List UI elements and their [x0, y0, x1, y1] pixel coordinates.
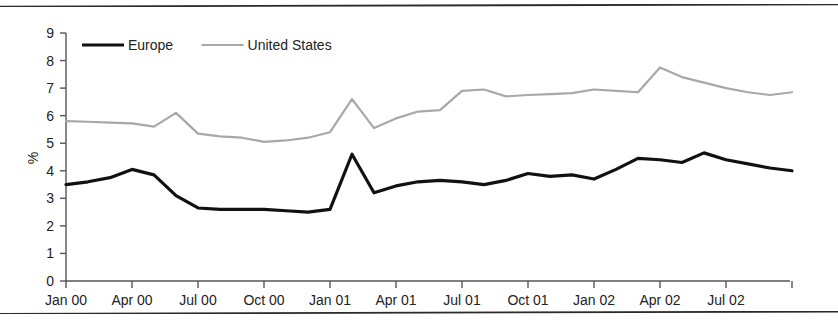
series-line-europe — [66, 153, 792, 212]
x-tick-label: Jul 01 — [443, 292, 481, 308]
y-tick-label: 3 — [46, 190, 54, 206]
y-tick-label: 8 — [46, 53, 54, 69]
x-tick-label: Jan 00 — [45, 292, 87, 308]
x-tick-label: Jan 02 — [573, 292, 615, 308]
y-tick-label: 7 — [46, 80, 54, 96]
page-rule-bottom — [0, 311, 838, 314]
y-axis: 0123456789 — [46, 25, 66, 289]
y-tick-label: 1 — [46, 245, 54, 261]
y-axis-ticks — [60, 33, 66, 281]
x-tick-label: Jul 02 — [707, 292, 745, 308]
x-tick-label: Apr 01 — [375, 292, 416, 308]
y-axis-label: % — [25, 152, 41, 164]
x-axis-ticks — [66, 281, 792, 288]
line-chart-plot: 0123456789 Jan 00Apr 00Jul 00Oct 00Jan 0… — [0, 0, 838, 330]
x-tick-label: Apr 02 — [639, 292, 680, 308]
x-tick-label: Jan 01 — [309, 292, 351, 308]
legend-label-united-states: United States — [248, 37, 332, 53]
x-tick-label: Jul 00 — [179, 292, 217, 308]
series-line-united-states — [66, 67, 792, 141]
y-tick-label: 9 — [46, 25, 54, 41]
x-tick-label: Oct 01 — [507, 292, 548, 308]
y-tick-label: 4 — [46, 163, 54, 179]
y-tick-label: 0 — [46, 273, 54, 289]
y-tick-label: 6 — [46, 108, 54, 124]
y-tick-label: 5 — [46, 135, 54, 151]
x-tick-label: Apr 00 — [111, 292, 152, 308]
chart-figure: 0123456789 Jan 00Apr 00Jul 00Oct 00Jan 0… — [0, 0, 838, 330]
y-axis-tick-labels: 0123456789 — [46, 25, 54, 289]
x-axis-tick-labels: Jan 00Apr 00Jul 00Oct 00Jan 01Apr 01Jul … — [45, 292, 745, 308]
x-tick-label: Oct 00 — [243, 292, 284, 308]
chart-legend: EuropeUnited States — [82, 37, 332, 53]
legend-label-europe: Europe — [128, 37, 173, 53]
y-tick-label: 2 — [46, 218, 54, 234]
x-axis: Jan 00Apr 00Jul 00Oct 00Jan 01Apr 01Jul … — [45, 281, 792, 308]
data-series-group — [66, 67, 792, 212]
